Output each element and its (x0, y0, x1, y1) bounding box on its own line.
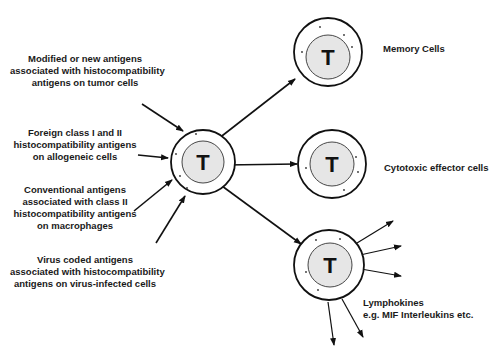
label-line: associated with histocompatibility (10, 65, 160, 77)
arrow-lymphokine-2 (360, 246, 401, 255)
label-line: histocompatibility antigens (10, 139, 140, 151)
memory-t-cell: T (294, 18, 362, 86)
label-line: e.g. MIF Interleukins etc. (363, 309, 473, 321)
label-line: antigens on virus-infected cells (10, 278, 160, 290)
output-label-cytotoxic: Cytotoxic effector cells (384, 162, 489, 174)
output-label-memory: Memory Cells (383, 43, 445, 55)
label-line: on macrophages (10, 220, 140, 232)
label-line: associated with class II (10, 196, 140, 208)
memory-cell-letter: T (321, 45, 335, 70)
input-label-virus: Virus coded antigens associated with his… (10, 254, 160, 290)
input-label-tumor: Modified or new antigens associated with… (10, 53, 160, 89)
arrow-input-allogeneic (138, 155, 168, 158)
label-line: Modified or new antigens (10, 53, 160, 65)
central-t-cell: T (171, 130, 235, 194)
cytotoxic-t-cell: T (298, 130, 366, 198)
label-line: on allogeneic cells (10, 151, 140, 163)
arrow-input-virus (156, 196, 185, 243)
label-line: Cytotoxic effector cells (384, 162, 489, 174)
label-line: Lymphokines (363, 297, 473, 309)
arrow-to-memory (218, 79, 295, 139)
input-label-macrophages: Conventional antigens associated with cl… (10, 184, 140, 232)
label-line: associated with histocompatibility (10, 266, 160, 278)
arrow-lymphokine-3 (361, 269, 401, 276)
label-line: Foreign class I and II (10, 127, 140, 139)
label-line: histocompatibility antigens (10, 208, 140, 220)
arrow-lymphokine-5 (342, 299, 363, 337)
arrow-lymphokine-1 (357, 221, 393, 243)
label-line: antigens on tumor cells (10, 77, 160, 89)
input-label-allogeneic: Foreign class I and II histocompatibilit… (10, 127, 140, 163)
output-label-lymphokines: Lymphokines e.g. MIF Interleukins etc. (363, 297, 473, 321)
label-line: Memory Cells (383, 43, 445, 55)
cytotoxic-cell-letter: T (325, 152, 339, 177)
arrow-to-lymphokine-cell (222, 186, 301, 244)
lymphokine-cell-letter: T (323, 253, 337, 278)
label-line: Virus coded antigens (10, 254, 160, 266)
lymphokine-t-cell: T (294, 230, 364, 300)
label-line: Conventional antigens (10, 184, 140, 196)
central-cell-letter: T (196, 150, 210, 175)
arrow-input-tumor (142, 104, 183, 131)
arrow-lymphokine-4 (328, 302, 334, 345)
